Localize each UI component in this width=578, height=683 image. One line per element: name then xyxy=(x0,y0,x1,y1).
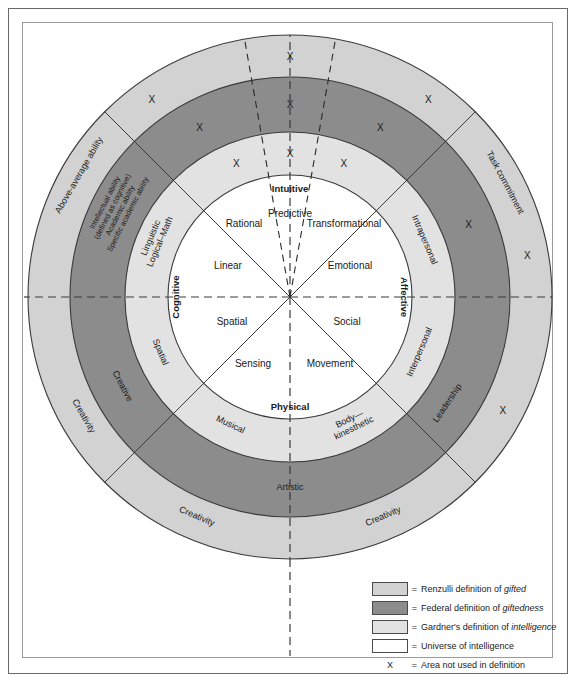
x-mark: X xyxy=(377,122,384,133)
x-mark: X xyxy=(287,148,294,159)
legend: =Renzulli definition of gifted=Federal d… xyxy=(372,580,552,675)
legend-equals: = xyxy=(408,660,421,670)
legend-item-renzulli: =Renzulli definition of gifted xyxy=(372,580,552,598)
legend-equals: = xyxy=(408,584,421,594)
label-physical: Physical xyxy=(271,401,310,412)
legend-label-renzulli: Renzulli definition of gifted xyxy=(421,584,526,594)
segment-sensing: Sensing xyxy=(235,358,271,369)
segment-rational: Rational xyxy=(226,218,263,229)
legend-item-federal: =Federal definition of giftedness xyxy=(372,599,552,617)
legend-equals: = xyxy=(408,622,421,632)
label-affective: Affective xyxy=(399,277,410,317)
x-mark: X xyxy=(499,405,506,416)
legend-emphasis: intelligence xyxy=(511,622,556,632)
x-mark: X xyxy=(148,94,155,105)
legend-swatch-gardner xyxy=(372,620,408,634)
x-mark: X xyxy=(233,158,240,169)
legend-label-universe: Universe of intelligence xyxy=(421,641,514,651)
legend-x-marker: X xyxy=(372,658,408,672)
legend-equals: = xyxy=(408,641,421,651)
x-mark: X xyxy=(196,122,203,133)
segment-linear: Linear xyxy=(214,260,242,271)
legend-label-federal: Federal definition of giftedness xyxy=(421,603,544,613)
segment-movement: Movement xyxy=(307,358,354,369)
label-intuitive: Intuitive xyxy=(272,183,308,194)
legend-emphasis: giftedness xyxy=(503,603,544,613)
segment-emotional: Emotional xyxy=(328,260,372,271)
label-cognitive: Cognitive xyxy=(170,275,181,318)
legend-label-not-used: Area not used in definition xyxy=(421,660,525,670)
x-mark: X xyxy=(287,99,294,110)
x-mark: X xyxy=(287,51,294,62)
x-mark: X xyxy=(340,158,347,169)
legend-item-universe: =Universe of intelligence xyxy=(372,637,552,655)
legend-swatch-renzulli xyxy=(372,582,408,596)
x-mark: X xyxy=(425,94,432,105)
diagram-page: IntuitivePhysicalCognitiveAffectivePredi… xyxy=(0,0,578,683)
legend-item-not-used: X=Area not used in definition xyxy=(372,656,552,674)
legend-emphasis: gifted xyxy=(504,584,526,594)
x-mark: X xyxy=(465,219,472,230)
segment-spatial: Spatial xyxy=(217,316,248,327)
segment-social: Social xyxy=(333,316,360,327)
legend-swatch-universe xyxy=(372,639,408,653)
legend-label-gardner: Gardner's definition of intelligence xyxy=(421,622,556,632)
federal-artistic: Artistic xyxy=(277,482,305,492)
segment-transformational: Transformational xyxy=(307,218,382,229)
legend-item-gardner: =Gardner's definition of intelligence xyxy=(372,618,552,636)
legend-swatch-federal xyxy=(372,601,408,615)
x-mark: X xyxy=(524,250,531,261)
legend-equals: = xyxy=(408,603,421,613)
